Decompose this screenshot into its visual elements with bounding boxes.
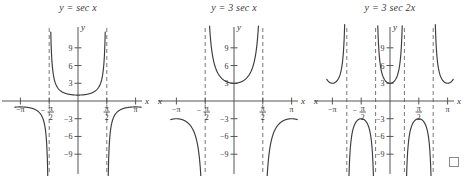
graph-panel-3sec-2x: y = 3 sec 2x −π−π2π2π963−3−6−9xxy [312,0,468,176]
plot-svg: −π−π2π2π963−3−6−9xxy [312,22,468,176]
graph-panel-3sec-x: y = 3 sec x −π−π2π2π963−3−6−9xxy [156,0,312,176]
end-of-proof-marker [449,157,459,167]
y-axis-tick-label: 3 [69,79,73,88]
y-axis-label: y [392,22,397,32]
svg-text:π: π [361,104,365,113]
curve-branch [435,25,453,84]
curve-branch [15,107,48,176]
y-axis-label: y [80,22,85,32]
svg-text:π: π [49,104,53,113]
curve-branch [327,25,345,84]
curve-branch [108,107,141,176]
curve-branch [267,119,297,176]
y-axis-tick-label: −6 [220,132,229,141]
y-axis-tick-label: −6 [376,132,385,141]
y-axis-tick-label: 9 [69,44,73,53]
svg-text:2: 2 [49,113,53,122]
y-axis-tick-label: 9 [225,44,229,53]
x-axis-label: x [300,96,305,106]
y-axis-label: y [236,22,241,32]
svg-text:π: π [261,104,265,113]
secant-graphs-figure: y = sec x −π−π2π2π963−3−6−9xy y = 3 sec … [0,0,468,176]
x-axis-tick-label: −π [328,105,337,114]
svg-text:2: 2 [417,113,421,122]
curve-branch [407,119,431,176]
x-axis-tick-label: π [290,105,294,114]
curve-branch [171,119,201,176]
curve-branch [349,119,373,176]
panel-title-3sec-2x: y = 3 sec 2x [312,2,468,13]
svg-text:2: 2 [205,113,209,122]
x-axis-label: x [144,96,149,106]
plot-svg: −π−π2π2π963−3−6−9xy [0,22,156,176]
panel-title-3sec-x: y = 3 sec x [156,2,312,13]
y-axis-tick-label: −9 [376,150,385,159]
svg-text:−: − [40,106,45,115]
svg-text:π: π [205,104,209,113]
x-axis-tick-label-fraction: −π2 [196,104,209,122]
svg-text:−: − [352,106,357,115]
y-axis-tick-label: 9 [381,44,385,53]
y-axis-tick-label: 6 [69,62,73,71]
svg-text:2: 2 [261,113,265,122]
y-axis-tick-label: −9 [64,150,73,159]
x-axis-label: x [456,96,461,106]
panel-title-sec-x: y = sec x [0,2,156,13]
y-axis-tick-label: −3 [64,115,73,124]
graph-panel-sec-x: y = sec x −π−π2π2π963−3−6−9xy [0,0,156,176]
y-axis-tick-label: −6 [64,132,73,141]
y-axis-tick-label: 6 [225,62,229,71]
y-axis-tick-label: 3 [381,79,385,88]
y-axis-tick-label: −3 [220,115,229,124]
svg-text:π: π [417,104,421,113]
plot-area-sec-x: −π−π2π2π963−3−6−9xy [0,22,156,176]
svg-text:−: − [196,106,201,115]
plot-area-3sec-2x: −π−π2π2π963−3−6−9xxy [312,22,468,176]
y-axis-tick-label: −9 [220,150,229,159]
x-axis-label-left: x [313,96,318,106]
x-axis-tick-label: −π [172,105,181,114]
x-axis-tick-label: π [446,105,450,114]
plot-svg: −π−π2π2π963−3−6−9xxy [156,22,312,176]
plot-area-3sec-x: −π−π2π2π963−3−6−9xxy [156,22,312,176]
x-axis-label-left: x [157,96,162,106]
x-axis-tick-label-fraction: π2 [260,104,266,122]
svg-text:2: 2 [105,113,109,122]
svg-text:π: π [105,104,109,113]
x-axis-tick-label-fraction: π2 [104,104,110,122]
y-axis-tick-label: −3 [376,115,385,124]
